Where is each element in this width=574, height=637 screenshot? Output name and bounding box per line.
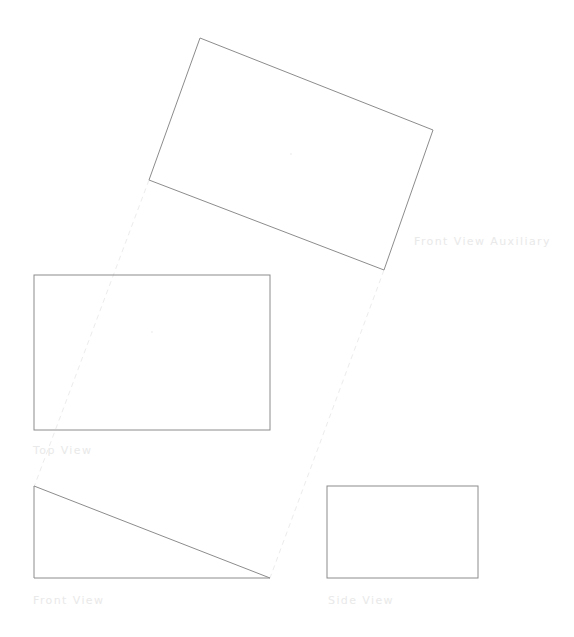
front-view-outline: [34, 486, 270, 578]
auxiliary-view-center-dot: [290, 153, 292, 155]
side-view-outline: [327, 486, 478, 578]
orthographic-projection-drawing: [0, 0, 574, 637]
projection-line-auxiliary-to-front-left: [34, 180, 149, 487]
label-top-view: Top View: [33, 445, 92, 456]
label-front-view-auxiliary: Front View Auxiliary: [414, 236, 551, 247]
label-front-view: Front View: [33, 595, 104, 606]
technical-drawing-canvas: Front View Auxiliary Top View Front View…: [0, 0, 574, 637]
top-view-outline: [34, 275, 270, 430]
top-view-center-dot: [151, 331, 153, 333]
label-side-view: Side View: [328, 595, 394, 606]
